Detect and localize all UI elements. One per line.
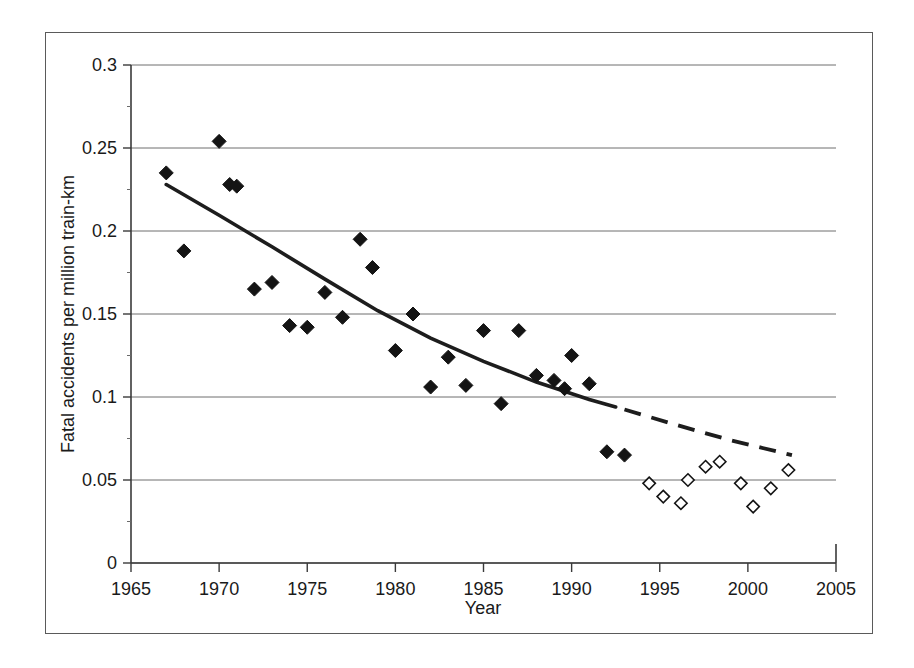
y-axis-ticks [123, 65, 131, 563]
figure-root: 00.050.10.150.20.250.3 19651970197519801… [0, 0, 914, 668]
y-tick-label-0.05: 0.05 [82, 470, 117, 490]
fatal-accidents-scatter-chart: 00.050.10.150.20.250.3 19651970197519801… [0, 0, 914, 668]
x-axis-tick-labels: 196519701975198019851990199520002005 [111, 579, 856, 599]
y-axis-tick-labels: 00.050.10.150.20.250.3 [82, 55, 117, 573]
y-tick-label-0.15: 0.15 [82, 304, 117, 324]
x-axis-title: Year [465, 598, 501, 618]
y-tick-label-0.3: 0.3 [92, 55, 117, 75]
y-tick-label-0.25: 0.25 [82, 138, 117, 158]
x-tick-label-1965: 1965 [111, 579, 151, 599]
y-tick-label-0.1: 0.1 [92, 387, 117, 407]
x-tick-label-1975: 1975 [287, 579, 327, 599]
x-tick-label-1995: 1995 [640, 579, 680, 599]
x-axis-ticks [131, 563, 836, 572]
x-tick-label-2005: 2005 [816, 579, 856, 599]
x-tick-label-1970: 1970 [199, 579, 239, 599]
x-tick-label-2000: 2000 [728, 579, 768, 599]
y-axis-title: Fatal accidents per million train-km [58, 175, 78, 453]
y-tick-label-0.2: 0.2 [92, 221, 117, 241]
x-tick-label-1985: 1985 [463, 579, 503, 599]
y-tick-label-0: 0 [107, 553, 117, 573]
x-tick-label-1980: 1980 [375, 579, 415, 599]
x-tick-label-1990: 1990 [552, 579, 592, 599]
